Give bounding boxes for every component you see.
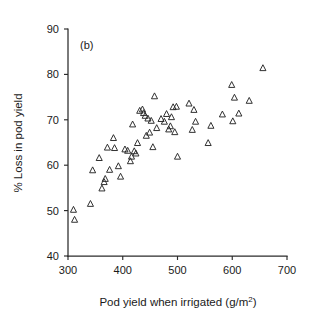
data-point: [189, 126, 195, 132]
data-point: [90, 167, 96, 173]
y-tick-label-70: 70: [47, 114, 59, 126]
data-point: [205, 140, 211, 146]
data-point: [130, 121, 136, 127]
data-point: [246, 97, 252, 103]
data-point: [72, 216, 78, 222]
data-point: [133, 150, 139, 156]
data-point: [191, 107, 197, 113]
x-tick-label-700: 700: [278, 264, 296, 276]
data-point: [135, 140, 141, 146]
data-point: [172, 129, 178, 135]
y-tick-label-60: 60: [47, 159, 59, 171]
data-point: [96, 155, 102, 161]
x-axis-title: Pod yield when irrigated (g/m2): [99, 295, 256, 308]
data-point: [230, 118, 236, 124]
y-axis-title: % Loss in pod yield: [12, 93, 24, 192]
x-tick-label-500: 500: [168, 264, 186, 276]
data-point: [150, 144, 156, 150]
data-point: [110, 135, 116, 141]
x-axis-tick-labels: 300400500600700: [59, 264, 296, 276]
data-point: [107, 166, 113, 172]
data-point: [229, 82, 235, 88]
data-point: [186, 100, 192, 106]
y-axis-tick-labels: 405060708090: [47, 23, 59, 262]
data-point: [231, 94, 237, 100]
data-point: [151, 93, 157, 99]
x-tick-label-600: 600: [223, 264, 241, 276]
data-point: [70, 206, 76, 212]
figure-panel-b: 405060708090 300400500600700 (b) % Loss …: [0, 0, 314, 327]
axes-group: [68, 29, 287, 256]
data-point: [118, 173, 124, 179]
x-tick-label-300: 300: [59, 264, 77, 276]
y-tick-label-50: 50: [47, 205, 59, 217]
data-point-markers: [70, 65, 266, 223]
x-tick-label-400: 400: [114, 264, 132, 276]
y-tick-label-90: 90: [47, 23, 59, 35]
data-point: [208, 122, 214, 128]
data-point: [99, 185, 105, 191]
data-point: [104, 144, 110, 150]
data-point: [219, 111, 225, 117]
data-point: [260, 65, 266, 71]
data-point: [236, 110, 242, 116]
data-point: [147, 129, 153, 135]
data-point: [174, 153, 180, 159]
data-point: [154, 125, 160, 131]
data-point: [193, 118, 199, 124]
data-point: [167, 123, 173, 129]
data-point: [164, 111, 170, 117]
data-point: [87, 200, 93, 206]
data-point: [115, 163, 121, 169]
y-tick-label-80: 80: [47, 68, 59, 80]
data-point: [112, 145, 118, 151]
scatter-plot: 405060708090 300400500600700 (b) % Loss …: [0, 0, 314, 327]
y-tick-label-40: 40: [47, 250, 59, 262]
panel-label: (b): [80, 39, 93, 51]
